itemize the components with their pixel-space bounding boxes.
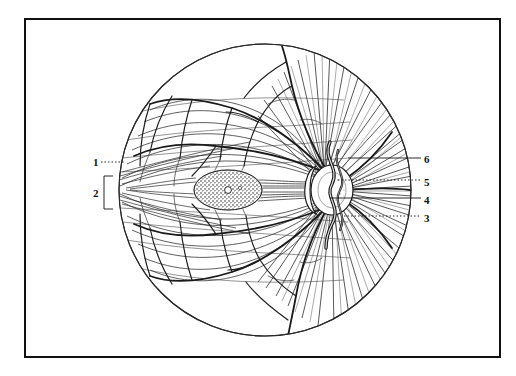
macula: [194, 170, 262, 210]
label-3: 3: [424, 213, 430, 224]
fundus-diagram: [0, 0, 516, 376]
label-4: 4: [424, 195, 430, 206]
label-2: 2: [93, 188, 99, 199]
leader-2-bracket: [104, 176, 113, 209]
fovea: [225, 187, 232, 194]
label-1: 1: [93, 157, 99, 168]
label-5: 5: [424, 177, 430, 188]
fundus-outline: [119, 44, 411, 336]
label-6: 6: [424, 154, 430, 165]
figure-root: 1 2 3 4 5 6: [0, 0, 516, 376]
